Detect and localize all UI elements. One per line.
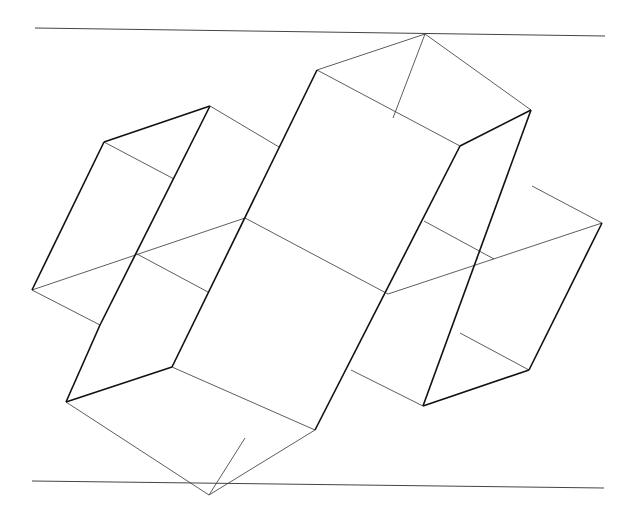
thin-edge	[317, 70, 460, 146]
thick-edge	[529, 223, 602, 370]
thin-edge	[425, 34, 531, 110]
thin-edge	[532, 186, 602, 223]
thin-edge	[32, 290, 100, 325]
thin-edge	[210, 106, 279, 147]
thick-edge	[100, 106, 210, 325]
thick-edge	[423, 110, 531, 406]
thin-edge	[388, 223, 602, 294]
bottom-rule	[32, 481, 604, 488]
geometric-line-drawing	[0, 0, 633, 512]
thin-edge	[351, 370, 423, 406]
thin-edge	[245, 218, 388, 294]
thin-edge	[393, 34, 425, 118]
thin-edge	[209, 438, 245, 495]
thick-edge	[32, 142, 104, 290]
thin-edge	[172, 367, 315, 430]
thick-edge	[423, 370, 529, 406]
thin-edge	[209, 430, 315, 495]
thick-edge	[315, 146, 460, 430]
thick-edge	[66, 325, 100, 402]
top-rule	[35, 28, 605, 36]
thin-edge	[32, 218, 245, 290]
thick-edge	[172, 70, 317, 367]
thin-edge	[104, 142, 174, 179]
thick-edge	[66, 367, 172, 402]
thin-edge	[137, 254, 208, 292]
thin-edge	[317, 34, 425, 70]
thin-edge	[460, 333, 529, 370]
thin-edge	[66, 402, 209, 495]
